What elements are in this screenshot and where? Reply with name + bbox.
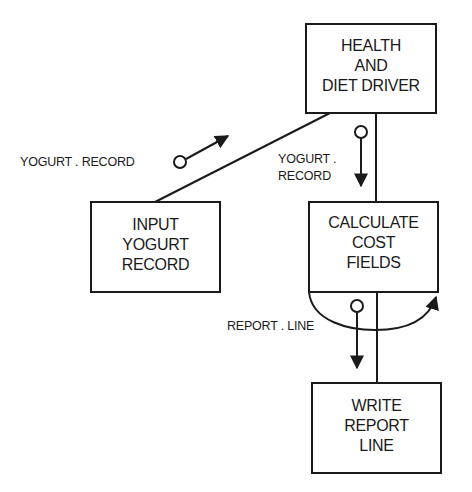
loop-symbol [309, 292, 436, 330]
couple-label-yogurt-record-down: YOGURT . RECORD [278, 151, 336, 185]
module-input-yogurt-record: INPUT YOGURT RECORD [91, 215, 220, 275]
couple-circle-report-line [351, 300, 363, 312]
couple-label-yogurt-record-up: YOGURT . RECORD [20, 154, 135, 170]
module-write-report-line: WRITE REPORT LINE [312, 396, 441, 456]
module-calculate-cost-fields: CALCULATE COST FIELDS [309, 213, 438, 273]
couple-circle-yogurt-record-up [174, 156, 186, 168]
couple-circle-yogurt-record-down [355, 126, 367, 138]
module-health-diet-driver: HEALTH AND DIET DRIVER [306, 36, 436, 96]
couple-label-report-line: REPORT . LINE [227, 318, 314, 334]
